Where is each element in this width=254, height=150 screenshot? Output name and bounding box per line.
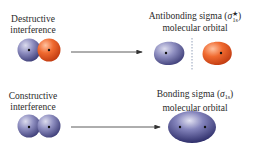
- label-line1: Bonding sigma (σ1s): [136, 89, 254, 103]
- destructive-orbitals: [18, 39, 61, 62]
- label-line2: interference: [2, 25, 64, 36]
- constructive-orbitals: [18, 115, 61, 138]
- nucleus-dot: [204, 126, 206, 128]
- destructive-interference-label: Destructive interference: [2, 14, 64, 35]
- antibonding-blue-lobe: [154, 42, 184, 65]
- nucleus-dot: [28, 126, 30, 128]
- label-line2: molecular orbital: [136, 23, 254, 34]
- antibonding-orange-lobe: [202, 42, 231, 65]
- label-line1: Destructive: [2, 14, 64, 25]
- label-line2: interference: [2, 102, 64, 113]
- nucleus-dot: [179, 126, 181, 128]
- label-prefix: Antibonding sigma (: [149, 11, 228, 21]
- label-prefix: Bonding sigma (: [157, 89, 220, 99]
- star-superscript: ★: [232, 11, 238, 17]
- label-line2: molecular orbital: [136, 103, 254, 114]
- nucleus-dot: [220, 52, 222, 54]
- label-suffix: ): [230, 89, 233, 99]
- label-line1: Constructive: [2, 91, 64, 102]
- nucleus-dot: [28, 49, 30, 51]
- constructive-interference-label: Constructive interference: [2, 91, 64, 112]
- antibonding-orbital: [154, 38, 232, 70]
- bonding-sigma-label: Bonding sigma (σ1s) molecular orbital: [136, 89, 254, 113]
- nucleus-dot: [48, 126, 50, 128]
- nucleus-dot: [165, 52, 167, 54]
- nucleus-dot: [48, 49, 50, 51]
- bonding-ellipsoid: [168, 111, 216, 143]
- bonding-orbital: [168, 111, 216, 143]
- label-suffix: ): [238, 11, 241, 21]
- antibonding-sigma-label: Antibonding sigma (σ★1s) molecular orbit…: [136, 11, 254, 34]
- label-line1: Antibonding sigma (σ★1s): [136, 11, 254, 23]
